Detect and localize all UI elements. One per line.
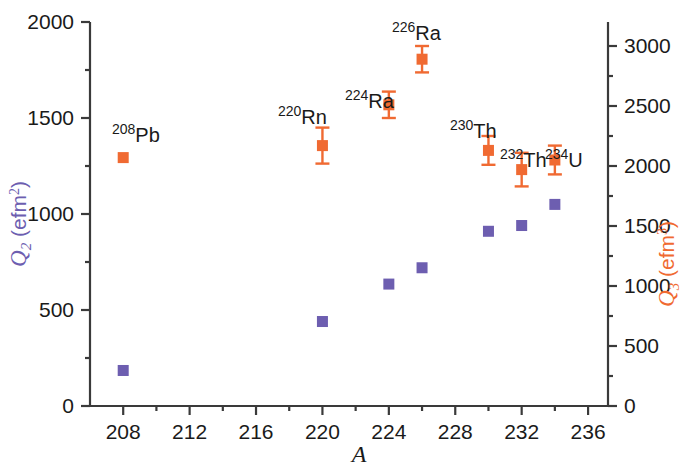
- isotope-annotation: 230Th: [450, 117, 497, 142]
- y-axis-right-title: Q3 (efm3): [654, 221, 682, 307]
- data-point-marker: [317, 140, 328, 151]
- y-left-tick-label: 500: [39, 298, 74, 321]
- isotope-label: 232Th: [500, 146, 547, 171]
- y-left-tick-label: 1000: [27, 202, 74, 225]
- data-point-marker: [483, 226, 494, 237]
- isotope-label: 230Th: [450, 117, 497, 142]
- x-tick-label: 216: [239, 420, 274, 443]
- isotope-annotation: 224Ra: [345, 87, 395, 112]
- data-point-marker: [118, 365, 129, 376]
- x-tick-label: 212: [172, 420, 207, 443]
- isotope-label: 220Rn: [278, 103, 327, 128]
- data-point-marker: [516, 220, 527, 231]
- series-Q2: [118, 199, 561, 376]
- data-point-marker: [417, 262, 428, 273]
- x-tick-label: 228: [438, 420, 473, 443]
- chart-figure: 2082122162202242282322360500100015002000…: [0, 0, 693, 470]
- x-tick-label: 236: [571, 420, 606, 443]
- y-right-tick-label: 2500: [624, 94, 671, 117]
- y-right-tick-label: 0: [624, 394, 636, 417]
- isotope-label: 208Pb: [112, 121, 160, 146]
- data-point-marker: [483, 145, 494, 156]
- y-axis-left-title: Q2 (efm2): [6, 181, 34, 267]
- isotope-annotation: 232Th: [500, 146, 547, 171]
- y-right-tick-label: 500: [624, 334, 659, 357]
- x-tick-label: 232: [504, 420, 539, 443]
- y-left-tick-label: 2000: [27, 10, 74, 33]
- data-point-marker: [417, 54, 428, 65]
- x-tick-label: 220: [305, 420, 340, 443]
- isotope-annotation: 220Rn: [278, 103, 327, 128]
- scatter-chart: 2082122162202242282322360500100015002000…: [0, 0, 693, 470]
- series-Q3: [118, 46, 562, 186]
- data-point-marker: [317, 316, 328, 327]
- y-right-tick-label: 2000: [624, 154, 671, 177]
- y-left-tick-label: 1500: [27, 106, 74, 129]
- y-right-tick-label: 3000: [624, 34, 671, 57]
- y-left-tick-label: 0: [62, 394, 74, 417]
- x-tick-label: 224: [371, 420, 406, 443]
- isotope-annotation: 234U: [545, 146, 583, 171]
- x-tick-label: 208: [106, 420, 141, 443]
- isotope-label: 226Ra: [392, 19, 442, 44]
- data-point-marker: [118, 152, 129, 163]
- isotope-annotation: 226Ra: [392, 19, 442, 44]
- x-axis-title: A: [350, 441, 367, 467]
- isotope-annotation: 208Pb: [112, 121, 160, 146]
- data-point-marker: [549, 199, 560, 210]
- y-axis-right-title-group: Q3 (efm3): [654, 221, 682, 307]
- data-point-marker: [383, 279, 394, 290]
- isotope-label: 224Ra: [345, 87, 395, 112]
- isotope-label: 234U: [545, 146, 583, 171]
- y-axis-left-title-group: Q2 (efm2): [6, 181, 34, 267]
